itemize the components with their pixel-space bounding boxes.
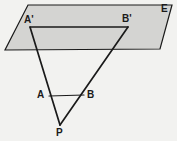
point-label-A-prime: A': [24, 15, 34, 25]
geometry-figure: E A' B' A B P: [0, 0, 177, 141]
point-label-B-prime: B': [122, 14, 132, 24]
point-label-A: A: [37, 90, 44, 100]
segment-A-B: [49, 95, 84, 96]
plane-label-E: E: [161, 4, 168, 14]
point-label-P: P: [56, 128, 63, 138]
point-label-B: B: [87, 90, 94, 100]
